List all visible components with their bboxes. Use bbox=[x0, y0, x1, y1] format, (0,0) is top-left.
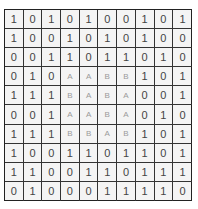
grid-cell-r9-c4: 0 bbox=[80, 182, 99, 201]
grid-cell-r8-c6: 0 bbox=[117, 163, 136, 182]
grid-cell-r7-c8: 0 bbox=[155, 144, 174, 163]
grid-cell-r1-c8: 0 bbox=[155, 29, 174, 48]
grid-cell-r9-c3: 0 bbox=[61, 182, 80, 201]
grid-cell-r5-c0: 0 bbox=[5, 105, 24, 124]
grid-cell-r7-c4: 1 bbox=[80, 144, 99, 163]
grid-cell-r2-c5: 1 bbox=[98, 48, 117, 67]
grid-cell-r8-c5: 1 bbox=[98, 163, 117, 182]
grid-cell-r7-c6: 1 bbox=[117, 144, 136, 163]
grid-cell-r3-c7: 1 bbox=[136, 67, 155, 86]
grid-cell-r2-c9: 0 bbox=[173, 48, 192, 67]
grid-cell-r8-c1: 1 bbox=[24, 163, 43, 182]
grid-cell-r0-c0: 1 bbox=[5, 10, 24, 29]
grid-cell-r7-c7: 1 bbox=[136, 144, 155, 163]
grid-cell-r8-c8: 1 bbox=[155, 163, 174, 182]
grid-cell-r0-c4: 1 bbox=[80, 10, 99, 29]
grid-cell-r4-c5: B bbox=[98, 86, 117, 105]
grid-cell-r6-c8: 0 bbox=[155, 125, 174, 144]
grid-cell-r3-c1: 1 bbox=[24, 67, 43, 86]
grid-cell-r9-c9: 0 bbox=[173, 182, 192, 201]
grid-cell-r8-c0: 1 bbox=[5, 163, 24, 182]
grid-cell-r3-c5: B bbox=[98, 67, 117, 86]
grid-cell-r9-c2: 0 bbox=[42, 182, 61, 201]
grid-cell-r5-c7: 0 bbox=[136, 105, 155, 124]
grid-cell-r2-c2: 1 bbox=[42, 48, 61, 67]
grid-cell-r1-c7: 1 bbox=[136, 29, 155, 48]
grid-cell-r5-c4: A bbox=[80, 105, 99, 124]
grid-cell-r3-c8: 0 bbox=[155, 67, 174, 86]
grid-cell-r7-c0: 1 bbox=[5, 144, 24, 163]
grid-cell-r3-c4: A bbox=[80, 67, 99, 86]
grid-cell-r4-c0: 1 bbox=[5, 86, 24, 105]
grid-cell-r8-c3: 0 bbox=[61, 163, 80, 182]
grid-cell-r9-c5: 1 bbox=[98, 182, 117, 201]
grid-cell-r3-c2: 0 bbox=[42, 67, 61, 86]
grid-cell-r5-c3: A bbox=[61, 105, 80, 124]
grid-cell-r9-c0: 0 bbox=[5, 182, 24, 201]
grid-cell-r0-c8: 0 bbox=[155, 10, 174, 29]
grid-cell-r1-c9: 0 bbox=[173, 29, 192, 48]
grid-cell-r1-c0: 1 bbox=[5, 29, 24, 48]
grid-cell-r8-c7: 1 bbox=[136, 163, 155, 182]
grid-cell-r1-c6: 0 bbox=[117, 29, 136, 48]
grid-cell-r1-c2: 0 bbox=[42, 29, 61, 48]
grid-cell-r9-c8: 1 bbox=[155, 182, 174, 201]
grid-cell-r3-c6: B bbox=[117, 67, 136, 86]
grid-cell-r2-c8: 1 bbox=[155, 48, 174, 67]
grid-cell-r3-c9: 1 bbox=[173, 67, 192, 86]
grid-cell-r8-c2: 0 bbox=[42, 163, 61, 182]
grid-cell-r3-c0: 0 bbox=[5, 67, 24, 86]
grid-cell-r2-c4: 0 bbox=[80, 48, 99, 67]
grid-cell-r1-c1: 0 bbox=[24, 29, 43, 48]
grid-cell-r5-c2: 1 bbox=[42, 105, 61, 124]
grid-cell-r2-c7: 0 bbox=[136, 48, 155, 67]
grid-cell-r0-c6: 0 bbox=[117, 10, 136, 29]
grid-cell-r8-c9: 1 bbox=[173, 163, 192, 182]
grid-cell-r4-c3: B bbox=[61, 86, 80, 105]
grid-cell-r7-c1: 0 bbox=[24, 144, 43, 163]
grid-cell-r5-c5: B bbox=[98, 105, 117, 124]
grid-cell-r0-c9: 1 bbox=[173, 10, 192, 29]
grid-cell-r1-c5: 1 bbox=[98, 29, 117, 48]
grid-cell-r4-c4: A bbox=[80, 86, 99, 105]
grid-cell-r2-c1: 0 bbox=[24, 48, 43, 67]
grid-cell-r6-c0: 1 bbox=[5, 125, 24, 144]
grid-cell-r6-c4: B bbox=[80, 125, 99, 144]
grid-cell-r7-c3: 1 bbox=[61, 144, 80, 163]
grid-cell-r3-c3: A bbox=[61, 67, 80, 86]
grid-cell-r5-c6: A bbox=[117, 105, 136, 124]
grid-cell-r9-c1: 1 bbox=[24, 182, 43, 201]
grid-cell-r7-c5: 0 bbox=[98, 144, 117, 163]
grid-cell-r4-c7: 0 bbox=[136, 86, 155, 105]
grid-cell-r8-c4: 1 bbox=[80, 163, 99, 182]
binary-grid: 101010010110010101000011011010010AABB101… bbox=[4, 9, 192, 201]
grid-cell-r6-c6: B bbox=[117, 125, 136, 144]
grid-cell-r5-c9: 0 bbox=[173, 105, 192, 124]
grid-cell-r2-c0: 0 bbox=[5, 48, 24, 67]
grid-cell-r0-c5: 0 bbox=[98, 10, 117, 29]
grid-cell-r6-c1: 1 bbox=[24, 125, 43, 144]
grid-cell-r4-c1: 1 bbox=[24, 86, 43, 105]
grid-cell-r5-c1: 0 bbox=[24, 105, 43, 124]
grid-cell-r1-c3: 1 bbox=[61, 29, 80, 48]
grid-cell-r4-c2: 1 bbox=[42, 86, 61, 105]
grid-cell-r6-c2: 1 bbox=[42, 125, 61, 144]
grid-cell-r6-c7: 1 bbox=[136, 125, 155, 144]
grid-cell-r4-c9: 1 bbox=[173, 86, 192, 105]
grid-cell-r5-c8: 1 bbox=[155, 105, 174, 124]
grid-cell-r7-c9: 1 bbox=[173, 144, 192, 163]
grid-cell-r0-c3: 0 bbox=[61, 10, 80, 29]
grid-cell-r7-c2: 0 bbox=[42, 144, 61, 163]
grid-cell-r4-c8: 0 bbox=[155, 86, 174, 105]
grid-cell-r6-c3: B bbox=[61, 125, 80, 144]
grid-cell-r4-c6: A bbox=[117, 86, 136, 105]
grid-cell-r9-c6: 1 bbox=[117, 182, 136, 201]
grid-cell-r9-c7: 1 bbox=[136, 182, 155, 201]
grid-cell-r6-c9: 1 bbox=[173, 125, 192, 144]
grid-cell-r0-c7: 1 bbox=[136, 10, 155, 29]
grid-cell-r6-c5: A bbox=[98, 125, 117, 144]
grid-cell-r0-c2: 1 bbox=[42, 10, 61, 29]
grid-cell-r1-c4: 0 bbox=[80, 29, 99, 48]
grid-cell-r2-c6: 1 bbox=[117, 48, 136, 67]
grid-cell-r2-c3: 1 bbox=[61, 48, 80, 67]
